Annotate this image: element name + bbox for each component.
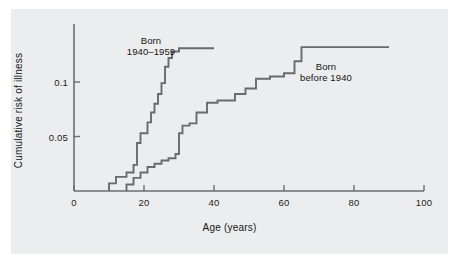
series-line-0 — [109, 48, 214, 191]
x-tick-label-20: 20 — [139, 197, 150, 208]
chart-figure: 020406080100 0.050.1 Age (years) Cumulat… — [0, 0, 459, 263]
y-axis-ticks — [74, 82, 80, 137]
series-label-line2: before 1940 — [281, 72, 371, 84]
series-label-line1: Born — [106, 35, 196, 47]
y-axis-title: Cumulative risk of illness — [13, 41, 24, 181]
x-tick-label-40: 40 — [209, 197, 220, 208]
series-label-0: Born1940–1959 — [106, 35, 196, 58]
y-tick-label-0.1: 0.1 — [30, 77, 68, 88]
x-axis-title: Age (years) — [0, 222, 459, 233]
series-label-line1: Born — [281, 61, 371, 73]
series-label-line2: 1940–1959 — [106, 46, 196, 58]
x-tick-label-100: 100 — [416, 197, 432, 208]
x-tick-label-0: 0 — [71, 197, 76, 208]
x-tick-label-80: 80 — [349, 197, 360, 208]
y-tick-label-0.05: 0.05 — [30, 131, 68, 142]
series-label-1: Bornbefore 1940 — [281, 61, 371, 84]
x-tick-label-60: 60 — [279, 197, 290, 208]
